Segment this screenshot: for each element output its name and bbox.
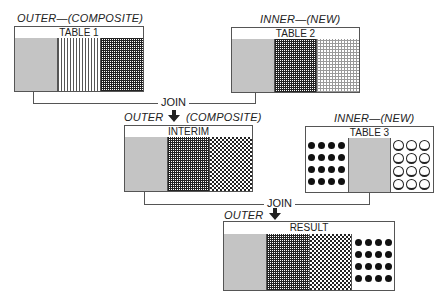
table3-col-open-circles [391,138,433,192]
result-col-solid-dots [352,234,394,290]
table1-col-gray [15,38,58,91]
interim-col-checker [210,137,252,191]
table2: TABLE 2 [231,27,360,93]
table2-caption: INNER—(NEW) [260,13,340,25]
interim-caption-outer: OUTER [124,111,164,123]
result-caption-outer: OUTER [224,209,264,221]
result-col-gray [224,234,267,290]
result-col-checker [310,234,353,290]
table3-caption: INNER—(NEW) [334,112,414,124]
arrow-down-icon [269,208,281,220]
result-col-dense-grid [267,234,310,290]
table2-col-gray [232,39,275,92]
arrow-down-icon [168,110,180,122]
table1-col-vertical-lines [58,38,101,91]
table1-col-dense-grid [101,38,143,91]
join2-connector [144,204,370,205]
join1-connector [33,103,256,104]
interim-col-gray [125,137,168,191]
interim-caption-composite: (COMPOSITE) [186,111,262,123]
table1-caption: OUTER—(COMPOSITE) [17,12,143,24]
result-table: RESULT [223,221,395,291]
table3-col-solid-dots [306,138,349,192]
interim-table: INTERIM [124,125,253,192]
table3-col-gray [349,138,392,192]
table2-col-light-grid [317,39,359,92]
join1-label: JOIN [158,96,189,108]
table1: TABLE 1 [14,26,144,92]
table2-col-dense-grid [275,39,318,92]
table3: TABLE 3 [305,126,434,193]
interim-col-dense-grid [168,137,211,191]
